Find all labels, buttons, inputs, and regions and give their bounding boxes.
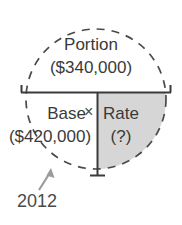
portion-value: ($340,000) [0,59,182,76]
year-annotation-label: 2012 [17,192,57,210]
percent-circle-diagram: Portion ($340,000) Base ($420,000) × Rat… [0,0,182,225]
rate-label: Rate [103,105,139,122]
callout-arrow-icon [39,168,55,190]
rate-value: (?) [101,128,141,145]
multiplication-operator: × [84,104,93,120]
base-label: Base [47,105,86,122]
portion-label: Portion [0,36,182,53]
base-value: ($420,000) [4,128,96,145]
horizontal-divider [21,85,171,93]
